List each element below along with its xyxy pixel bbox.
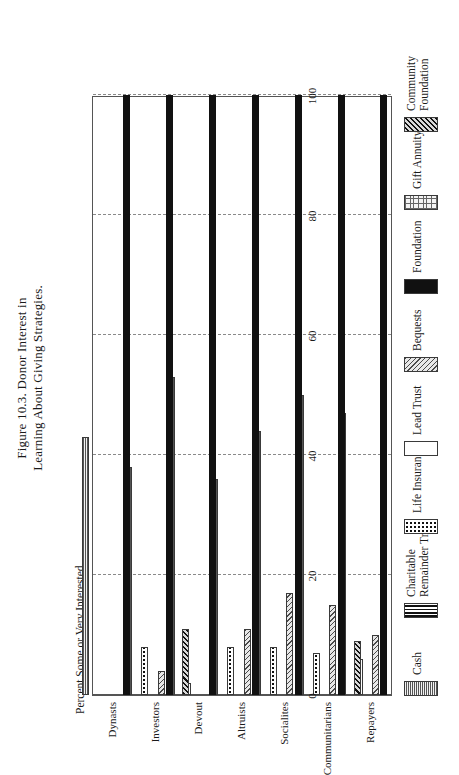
figure-title-line-2: Learning About Giving Strategies. [30, 0, 46, 756]
legend-label-line-1: Foundation [411, 221, 424, 273]
legend-label: Foundation [411, 221, 424, 273]
bar-communitarians-bequests [329, 605, 336, 695]
legend-label-line-1: Lead Trust [411, 385, 424, 435]
bar-repayers-bequests [372, 635, 379, 695]
figure-title-line-1: Figure 10.3. Donor Interest in [14, 0, 30, 756]
y-tick-label-20: 20 [306, 571, 318, 582]
x-category-label-altruists: Altruists [235, 702, 247, 740]
legend-label-line-1: Gift Annuity [411, 131, 424, 189]
figure-title: Figure 10.3. Donor Interest in Learning … [14, 0, 46, 756]
charitable-remainder-trust-swatch [404, 603, 438, 618]
legend-label-line-1: Bequests [411, 309, 424, 351]
legend-label-line-1: Cash [411, 652, 424, 675]
legend-label: Life Insurance [411, 446, 424, 513]
y-tick-label-0: 0 [306, 693, 318, 699]
plot-area [92, 96, 392, 696]
bar-repayers-foundation [380, 95, 387, 695]
gridline-60 [93, 334, 391, 335]
life-insurance-swatch [404, 519, 438, 534]
legend-label: Bequests [411, 309, 424, 351]
bar-dynasts-foundation [123, 95, 130, 695]
legend-label: CommunityFoundation [405, 56, 430, 111]
x-category-label-investors: Investors [149, 702, 161, 742]
bar-dynasts-cash [82, 437, 89, 695]
community-foundation-swatch [404, 117, 438, 132]
bar-socialites-life-insurance [270, 647, 277, 695]
y-tick-label-60: 60 [306, 331, 318, 342]
gridline-80 [93, 214, 391, 215]
lead-trust-swatch [404, 441, 438, 456]
bar-communitarians-community-foundation [354, 641, 361, 695]
bar-altruists-foundation [252, 95, 259, 695]
legend-label-line-2: Foundation [418, 56, 431, 111]
x-category-label-communitarians: Communitarians [321, 702, 333, 775]
x-category-label-socialites: Socialites [278, 702, 290, 745]
legend: CashCharitableRemainder TrustLife Insura… [404, 56, 452, 696]
bar-investors-life-insurance [141, 647, 148, 695]
bar-socialites-bequests [286, 593, 293, 695]
bar-investors-bequests [158, 671, 165, 695]
bar-investors-community-foundation [182, 629, 189, 695]
cash-swatch [404, 681, 438, 696]
legend-label: Gift Annuity [411, 131, 424, 189]
legend-label: Lead Trust [411, 385, 424, 435]
y-tick-label-40: 40 [306, 451, 318, 462]
x-category-label-devout: Devout [192, 702, 204, 734]
legend-label-line-1: Community [405, 56, 418, 111]
plot-inner [93, 97, 391, 695]
bar-altruists-bequests [244, 629, 251, 695]
bar-investors-foundation [166, 95, 173, 695]
bar-communitarians-life-insurance [313, 653, 320, 695]
gridline-100 [93, 94, 391, 95]
bar-socialites-foundation [295, 95, 302, 695]
legend-label: Cash [411, 652, 424, 675]
bar-altruists-life-insurance [227, 647, 234, 695]
y-tick-label-80: 80 [306, 211, 318, 222]
x-category-label-repayers: Repayers [364, 702, 376, 743]
y-tick-label-100: 100 [306, 88, 318, 105]
bar-devout-foundation [209, 95, 216, 695]
bar-communitarians-foundation [338, 95, 345, 695]
legend-label-line-1: Life Insurance [411, 446, 424, 513]
gift-annuity-swatch [404, 195, 438, 210]
bequests-swatch [404, 357, 438, 372]
foundation-swatch [404, 279, 438, 294]
x-category-label-dynasts: Dynasts [106, 702, 118, 737]
